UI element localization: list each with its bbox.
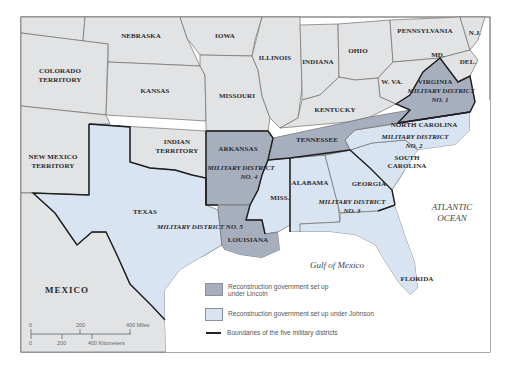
label-florida: FLORIDA [401,275,434,283]
legend-item-boundary: Boundaries of the five military district… [205,329,338,336]
label-miss: MISS. [270,194,290,202]
legend-line-icon [206,332,221,334]
label-kentucky: KENTUCKY [314,106,355,114]
label-indian-2: TERRITORY [156,147,199,155]
legend-label-lincoln-1: Reconstruction government set up [228,283,328,290]
district-4-label-2: NO. 4 [239,173,258,181]
label-gulf: Gulf of Mexico [310,260,364,270]
district-3-label-2: NO. 3 [342,207,361,215]
district-2-label-1: MILITARY DISTRICT [380,133,449,141]
label-illinois: ILLINOIS [259,54,292,62]
district-1-label-2: NO. 1 [430,96,448,104]
label-ohio: OHIO [348,47,368,55]
label-newmexico-2: TERRITORY [32,162,75,170]
scale-km-400: 400 Kilometers [88,340,125,346]
label-newmexico-1: NEW MEXICO [29,153,78,161]
scale-miles-400: 400 Miles [126,322,150,328]
scale-miles-0: 0 [29,322,32,328]
label-virginia: VIRGINIA [418,78,453,86]
district-2-label-2: NO. 2 [404,142,423,150]
label-colorado-1: COLORADO [39,67,81,75]
scale-miles-200: 200 [76,322,85,328]
legend-item-johnson: Reconstruction government set up under J… [205,308,374,321]
label-texas: TEXAS [133,208,157,216]
label-georgia: GEORGIA [352,180,387,188]
legend-swatch-lincoln [205,283,223,296]
label-colorado-2: TERRITORY [39,76,82,84]
label-alabama: ALABAMA [292,179,329,187]
label-indian-1: INDIAN [164,138,190,146]
district-3-label-1: MILITARY DISTRICT [317,198,386,206]
label-missouri: MISSOURI [219,92,255,100]
label-nj: N.J. [469,29,482,37]
label-indiana: INDIANA [302,58,333,66]
legend-label-johnson: Reconstruction government set up under J… [228,310,374,317]
label-atlantic-2: OCEAN [437,213,467,223]
scale-km-200: 200 [57,340,66,346]
label-atlantic-1: ATLANTIC [431,202,474,212]
label-del: DEL. [460,58,477,66]
label-wva: W. VA. [381,78,402,86]
legend-swatch-johnson [205,308,223,321]
legend-item-lincoln: Reconstruction government set up under L… [205,283,328,297]
scale-km-0: 0 [29,340,32,346]
district-5-label: MILITARY DISTRICT NO. 5 [156,223,243,231]
label-south-carolina-1: SOUTH [394,154,419,162]
label-iowa: IOWA [215,32,235,40]
label-kansas: KANSAS [141,87,170,95]
label-tennessee: TENNESSEE [296,136,338,144]
label-arkansas: ARKANSAS [218,145,257,153]
label-louisiana: LOUISIANA [228,236,269,244]
label-south-carolina-2: CAROLINA [388,162,427,170]
label-mexico: MEXICO [45,285,89,295]
legend-label-lincoln-2: under Lincoln [228,290,328,297]
label-north-carolina: NORTH CAROLINA [391,121,458,129]
label-pennsylvania: PENNSYLVANIA [397,27,452,35]
label-md: MD. [431,51,445,59]
district-1-label-1: MILITARY DISTRICT [406,87,475,95]
legend-label-boundary: Boundaries of the five military district… [227,329,338,336]
district-4-label-1: MILITARY DISTRICT [206,164,275,172]
label-nebraska: NEBRASKA [121,32,161,40]
